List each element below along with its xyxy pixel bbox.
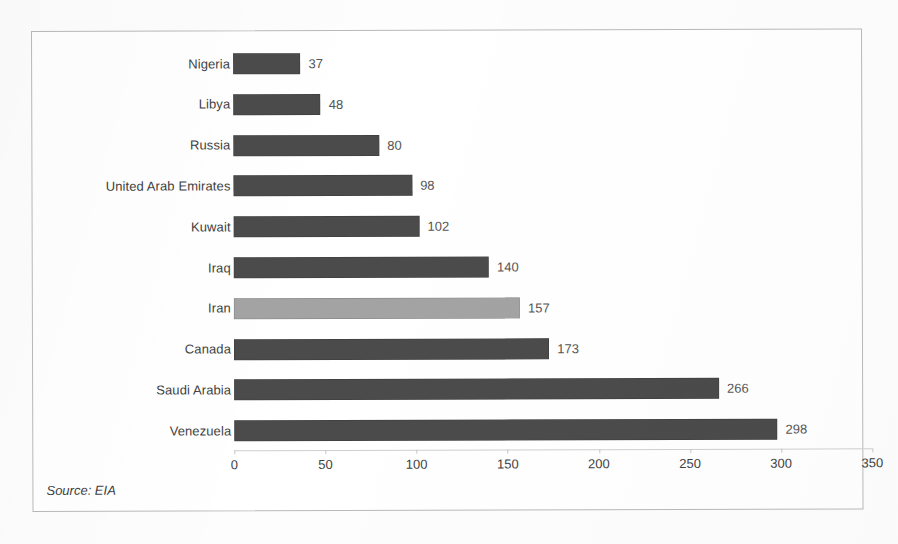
x-tick-mark: [599, 449, 600, 453]
bar-value-label: 98: [420, 179, 435, 192]
bar-value-label: 298: [785, 423, 807, 436]
x-tick-mark: [325, 450, 326, 454]
bar-row: Nigeria37: [32, 40, 863, 85]
bar-row: Iran157: [33, 285, 864, 330]
category-label: United Arab Emirates: [10, 178, 230, 194]
category-label: Iran: [11, 301, 231, 317]
bar-group: 102: [234, 216, 450, 238]
source-note: Source: EIA: [46, 483, 115, 498]
bar: [234, 297, 520, 319]
bar: [234, 419, 777, 442]
bar-group: 37: [233, 53, 323, 74]
bar: [234, 338, 549, 360]
bar-row: Saudi Arabia266: [33, 367, 864, 412]
chart-page: Nigeria37Libya48Russia80United Arab Emir…: [0, 0, 898, 544]
x-tick-label: 100: [406, 457, 428, 472]
bar-row: Iraq140: [33, 244, 864, 289]
bar: [233, 94, 321, 115]
chart-frame: Nigeria37Libya48Russia80United Arab Emir…: [31, 28, 864, 512]
bar-row: Kuwait102: [33, 204, 864, 249]
bar: [233, 175, 412, 197]
bar-row: United Arab Emirates98: [32, 163, 863, 208]
bar-value-label: 48: [329, 98, 344, 111]
bar-value-label: 37: [309, 57, 324, 70]
x-tick-label: 250: [679, 456, 701, 471]
category-label: Saudi Arabia: [11, 382, 231, 398]
x-tick-mark: [690, 449, 691, 453]
bar-row: Libya48: [32, 81, 863, 126]
x-tick-label: 50: [318, 457, 333, 472]
category-label: Russia: [10, 137, 230, 153]
bar-value-label: 102: [428, 220, 450, 233]
x-tick-mark: [234, 450, 235, 454]
x-tick-mark: [872, 448, 873, 452]
category-label: Nigeria: [10, 56, 230, 72]
bar-group: 98: [233, 175, 434, 197]
bar: [234, 378, 719, 401]
bar-group: 298: [234, 419, 807, 442]
category-label: Libya: [10, 97, 230, 113]
x-tick-label: 150: [497, 456, 519, 471]
x-tick-label: 200: [588, 456, 610, 471]
bar-group: 157: [234, 297, 550, 319]
bar-row: Venezuela298: [33, 408, 864, 453]
bar-row: Canada173: [33, 326, 864, 371]
bar-group: 48: [233, 94, 343, 115]
bar-value-label: 140: [497, 260, 519, 273]
x-tick-mark: [508, 450, 509, 454]
bar: [233, 53, 301, 74]
bar-group: 173: [234, 338, 579, 360]
plot-area: Nigeria37Libya48Russia80United Arab Emir…: [32, 29, 865, 513]
x-tick-label: 300: [770, 456, 792, 471]
bar-row: Russia80: [32, 122, 863, 167]
bar-value-label: 157: [528, 301, 550, 314]
bar: [234, 216, 420, 238]
bar-group: 80: [233, 134, 401, 156]
category-label: Canada: [11, 341, 231, 357]
bar-value-label: 80: [387, 138, 402, 151]
category-label: Venezuela: [11, 423, 231, 439]
bar: [233, 135, 379, 156]
x-tick-label: 0: [231, 457, 238, 472]
bar-value-label: 266: [727, 382, 749, 395]
bar-value-label: 173: [557, 342, 579, 355]
x-tick-mark: [417, 450, 418, 454]
category-label: Kuwait: [11, 219, 231, 235]
x-tick-label: 350: [861, 455, 883, 470]
x-tick-mark: [781, 449, 782, 453]
category-label: Iraq: [11, 260, 231, 276]
bar-group: 140: [234, 256, 519, 278]
bar: [234, 257, 489, 279]
bar-group: 266: [234, 378, 749, 401]
